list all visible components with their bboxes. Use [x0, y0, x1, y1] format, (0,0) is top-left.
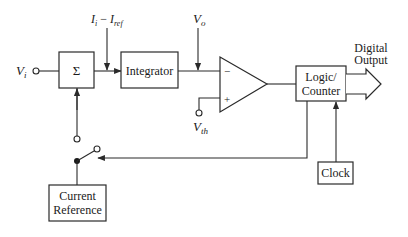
current-difference-label: Ii − Iref	[90, 12, 124, 28]
current-reference-label-line2: Reference	[53, 203, 102, 217]
input-terminal	[33, 68, 39, 74]
threshold-terminal	[196, 110, 202, 116]
comparator-plus-sign: +	[224, 93, 230, 105]
adc-block-diagram: Vi Σ Ii − Iref Integrator Vo − + Vth Log…	[0, 0, 408, 237]
comparator-minus-sign: −	[224, 65, 230, 77]
threshold-voltage-label: Vth	[193, 119, 208, 136]
switch-blade	[77, 151, 94, 161]
logic-counter-label-line2: Counter	[302, 84, 341, 98]
input-voltage-label: Vi	[16, 63, 27, 80]
summer-label: Σ	[73, 63, 81, 78]
threshold-wire	[199, 98, 220, 110]
switch-contact-open	[94, 146, 100, 152]
integrator-label: Integrator	[126, 64, 173, 78]
digital-output-arrow	[346, 69, 381, 99]
switch-contact-summer	[74, 136, 80, 142]
integrator-output-label: Vo	[193, 11, 206, 28]
digital-output-label-line2: Output	[354, 53, 388, 67]
logic-counter-label-line1: Logic/	[305, 70, 337, 84]
clock-label: Clock	[321, 166, 350, 180]
current-reference-label-line1: Current	[59, 189, 96, 203]
